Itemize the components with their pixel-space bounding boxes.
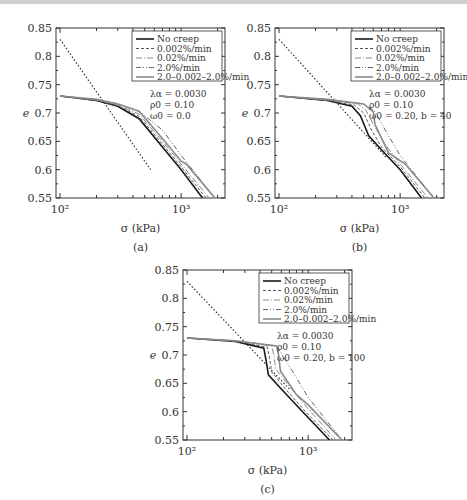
x-axis-label: σ (kPa) bbox=[340, 222, 380, 235]
chart-panel-b: 0.850.80.750.70.650.60.5510²10³σ (kPa)e(… bbox=[242, 22, 467, 254]
x-tick-label: 10² bbox=[270, 203, 288, 216]
y-tick-label: 0.85 bbox=[155, 264, 180, 277]
legend-entry: 0.02%/min bbox=[157, 53, 206, 63]
parameter-annotation: ρ0 = 0.10 bbox=[277, 342, 322, 352]
y-tick-label: 0.75 bbox=[247, 79, 272, 92]
x-axis-label: σ (kPa) bbox=[248, 464, 288, 477]
y-tick-label: 0.65 bbox=[28, 135, 53, 148]
y-tick-label: 0.7 bbox=[254, 107, 272, 120]
y-tick-label: 0.6 bbox=[254, 164, 272, 177]
panel-caption: (a) bbox=[133, 241, 148, 254]
y-tick-label: 0.55 bbox=[247, 192, 272, 205]
y-tick-label: 0.8 bbox=[162, 292, 180, 305]
y-tick-label: 0.85 bbox=[247, 22, 272, 35]
chart-panel-c: 0.850.80.750.70.650.60.5510²10³σ (kPa)e(… bbox=[150, 264, 377, 496]
parameter-annotation: λα = 0.0030 bbox=[150, 89, 207, 99]
x-tick-label: 10³ bbox=[391, 203, 409, 216]
y-tick-label: 0.6 bbox=[162, 406, 180, 419]
legend-entry: 0.02%/min bbox=[284, 295, 333, 305]
legend-entry: No creep bbox=[376, 34, 418, 44]
y-tick-label: 0.65 bbox=[155, 377, 180, 390]
legend-entry: 2.0%/min bbox=[376, 63, 419, 73]
y-tick-label: 0.6 bbox=[35, 164, 53, 177]
parameter-annotation: λα = 0.0030 bbox=[277, 331, 334, 341]
x-tick-label: 10² bbox=[51, 203, 69, 216]
y-tick-label: 0.8 bbox=[254, 50, 272, 63]
panel-caption: (c) bbox=[260, 483, 275, 496]
y-tick-label: 0.85 bbox=[28, 22, 53, 35]
legend-entry: 0.002%/min bbox=[376, 44, 431, 54]
y-tick-label: 0.75 bbox=[155, 321, 180, 334]
y-tick-label: 0.55 bbox=[28, 192, 53, 205]
x-tick-label: 10³ bbox=[299, 445, 317, 458]
legend-entry: 2.0%/min bbox=[157, 63, 200, 73]
x-tick-label: 10³ bbox=[172, 203, 190, 216]
legend-entry: 2.0–0.002–2.0%/min bbox=[157, 72, 249, 82]
y-axis-label: e bbox=[242, 107, 249, 120]
y-axis-label: e bbox=[150, 349, 157, 362]
legend-entry: 0.002%/min bbox=[284, 286, 339, 296]
chart-panel-a: 0.850.80.750.70.650.60.5510²10³σ (kPa)e(… bbox=[23, 22, 250, 254]
y-tick-label: 0.8 bbox=[35, 50, 53, 63]
panel-caption: (b) bbox=[352, 241, 368, 254]
y-tick-label: 0.65 bbox=[247, 135, 272, 148]
legend-entry: No creep bbox=[284, 276, 326, 286]
parameter-annotation: ω0 = 0.0 bbox=[150, 111, 191, 121]
y-tick-label: 0.7 bbox=[162, 349, 180, 362]
parameter-annotation: ω0 = 0.20, b = 40 bbox=[369, 111, 452, 121]
parameter-annotation: ρ0 = 0.10 bbox=[369, 100, 414, 110]
legend-entry: 0.02%/min bbox=[376, 53, 425, 63]
parameter-annotation: ω0 = 0.20, b = 100 bbox=[277, 353, 366, 363]
legend-entry: No creep bbox=[157, 34, 199, 44]
x-tick-label: 10² bbox=[178, 445, 196, 458]
legend-entry: 2.0–0.002–2.0%/min bbox=[376, 72, 467, 82]
y-tick-label: 0.55 bbox=[155, 434, 180, 447]
legend-entry: 0.002%/min bbox=[157, 44, 212, 54]
y-tick-label: 0.7 bbox=[35, 107, 53, 120]
parameter-annotation: λα = 0.0030 bbox=[369, 89, 426, 99]
legend-entry: 2.0–0.002–2.0%/min bbox=[284, 314, 376, 324]
figure-canvas: 0.850.80.750.70.650.60.5510²10³σ (kPa)e(… bbox=[0, 0, 467, 500]
y-tick-label: 0.75 bbox=[28, 79, 53, 92]
y-axis-label: e bbox=[23, 107, 30, 120]
x-axis-label: σ (kPa) bbox=[121, 222, 161, 235]
parameter-annotation: ρ0 = 0.10 bbox=[150, 100, 195, 110]
legend-entry: 2.0%/min bbox=[284, 305, 327, 315]
